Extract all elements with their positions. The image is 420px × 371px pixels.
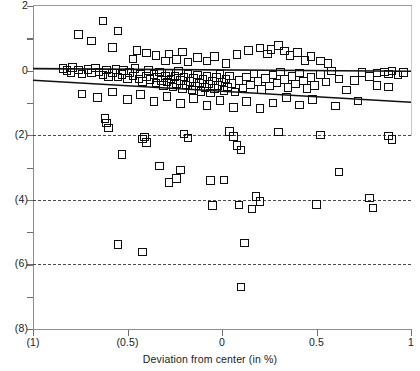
data-point-marker xyxy=(316,131,325,140)
data-point-marker xyxy=(118,150,127,159)
data-point-marker xyxy=(237,283,246,292)
data-point-marker xyxy=(108,88,117,97)
data-point-marker xyxy=(165,178,174,187)
data-point-marker xyxy=(242,97,251,106)
data-point-marker xyxy=(114,240,123,249)
data-point-marker xyxy=(138,248,147,257)
data-point-marker xyxy=(74,30,83,39)
data-point-marker xyxy=(229,103,238,112)
data-point-marker xyxy=(399,68,408,77)
data-point-marker xyxy=(93,93,102,102)
data-point-marker xyxy=(99,17,108,26)
data-point-marker xyxy=(150,97,159,106)
data-point-marker xyxy=(256,104,265,113)
data-point-marker xyxy=(129,55,138,64)
data-point-marker xyxy=(256,197,265,206)
data-point-marker xyxy=(208,201,217,210)
data-point-marker xyxy=(203,101,212,110)
data-point-marker xyxy=(233,50,242,59)
data-point-marker xyxy=(237,146,246,155)
data-point-marker xyxy=(114,27,123,36)
data-point-marker xyxy=(206,176,215,185)
data-point-marker xyxy=(312,200,321,209)
data-point-marker xyxy=(176,99,185,108)
data-point-marker xyxy=(335,168,344,177)
data-point-marker xyxy=(244,46,253,55)
data-point-marker xyxy=(235,201,244,210)
data-point-marker xyxy=(248,205,257,214)
data-point-marker xyxy=(193,53,202,62)
data-point-marker xyxy=(373,81,382,90)
data-point-marker xyxy=(216,96,225,105)
data-point-marker xyxy=(342,86,351,95)
data-point-marker xyxy=(274,128,283,137)
data-point-marker xyxy=(240,239,249,248)
data-point-marker xyxy=(184,58,193,67)
data-point-marker xyxy=(123,95,132,104)
data-point-marker xyxy=(335,75,344,84)
data-point-marker xyxy=(269,99,278,108)
data-point-marker xyxy=(282,93,291,102)
data-point-marker xyxy=(155,162,164,171)
data-point-marker xyxy=(384,83,393,92)
data-point-marker xyxy=(87,37,96,46)
data-point-marker xyxy=(108,43,117,52)
data-point-marker xyxy=(222,59,231,68)
data-point-marker xyxy=(322,78,331,87)
data-point-marker xyxy=(140,133,149,142)
data-point-marker xyxy=(310,81,319,90)
scatter-chart-figure: 20(2)(4)(6)(8) (1)(0.5)00.51 Deviation f… xyxy=(0,0,420,371)
data-point-marker xyxy=(365,194,374,203)
data-point-marker xyxy=(189,94,198,103)
data-point-marker xyxy=(172,174,181,183)
data-point-marker xyxy=(354,97,363,106)
data-point-marker xyxy=(308,95,317,104)
data-point-marker xyxy=(210,52,219,61)
data-point-marker xyxy=(104,124,113,133)
data-point-marker xyxy=(152,51,161,60)
data-point-marker xyxy=(178,48,187,57)
data-point-marker xyxy=(184,134,193,143)
data-point-marker xyxy=(133,46,142,55)
data-point-marker xyxy=(172,55,181,64)
data-point-marker xyxy=(136,90,145,99)
data-point-marker xyxy=(229,132,238,141)
data-point-marker xyxy=(331,102,340,111)
scatter-points xyxy=(0,0,420,371)
data-point-marker xyxy=(307,52,316,61)
data-point-marker xyxy=(176,166,185,175)
x-axis-title: Deviation from center (in %) xyxy=(0,353,420,365)
data-point-marker xyxy=(142,49,151,58)
data-point-marker xyxy=(350,76,359,85)
data-point-marker xyxy=(163,92,172,101)
data-point-marker xyxy=(369,204,378,213)
data-point-marker xyxy=(295,101,304,110)
data-point-marker xyxy=(220,176,229,185)
data-point-marker xyxy=(388,135,397,144)
data-point-marker xyxy=(78,90,87,99)
